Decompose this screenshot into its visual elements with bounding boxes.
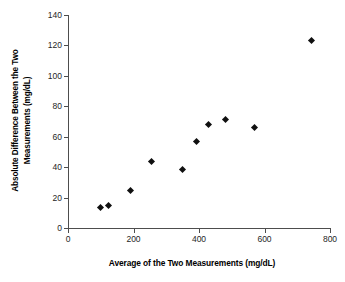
data-point: [179, 166, 186, 173]
y-axis-title-line1: Absolute Difference Between the Two: [10, 49, 22, 191]
x-tick-mark: [68, 229, 69, 233]
y-tick-mark: [64, 76, 68, 77]
y-tick-mark: [64, 45, 68, 46]
y-tick-label: 40: [53, 162, 62, 172]
y-tick-label: 140: [48, 10, 62, 20]
y-tick-label: 60: [53, 132, 62, 142]
y-tick-label: 20: [53, 193, 62, 203]
y-axis-title: Absolute Difference Between the Two Meas…: [0, 0, 42, 240]
data-point: [205, 121, 212, 128]
y-tick-mark: [64, 167, 68, 168]
y-tick-label: 120: [48, 40, 62, 50]
y-tick-mark: [64, 106, 68, 107]
y-tick-label: 80: [53, 101, 62, 111]
x-tick-mark: [199, 229, 200, 233]
x-tick-mark: [330, 229, 331, 233]
y-axis-line: [68, 15, 69, 229]
x-tick-label: 800: [323, 234, 337, 244]
data-point: [251, 124, 258, 131]
y-tick-mark: [64, 198, 68, 199]
y-tick-label: 0: [57, 223, 62, 233]
x-tick-label: 0: [66, 234, 71, 244]
y-tick-mark: [64, 15, 68, 16]
data-point: [127, 187, 134, 194]
x-tick-label: 400: [192, 234, 206, 244]
y-axis-title-line2: Measurements (mg/dL): [21, 49, 33, 191]
data-point: [105, 202, 112, 209]
data-point: [148, 158, 155, 165]
plot-area: 020406080100120140 0200400600800: [68, 15, 330, 228]
data-point: [97, 204, 104, 211]
data-point: [308, 37, 315, 44]
x-tick-label: 600: [257, 234, 271, 244]
x-axis-title: Average of the Two Measurements (mg/dL): [42, 258, 342, 268]
data-point: [193, 138, 200, 145]
x-tick-label: 200: [126, 234, 140, 244]
scatter-chart: Absolute Difference Between the Two Meas…: [0, 0, 345, 282]
x-tick-mark: [265, 229, 266, 233]
x-tick-mark: [134, 229, 135, 233]
y-tick-mark: [64, 137, 68, 138]
y-tick-label: 100: [48, 71, 62, 81]
data-point: [222, 116, 229, 123]
